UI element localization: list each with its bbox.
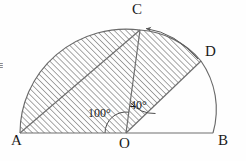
arc-DB [201,61,216,133]
vertex-label-c: C [132,2,142,17]
vertex-label-b: B [218,133,228,148]
geometry-figure: A B C D O 100° 40° ≡ [0,0,246,161]
angle-label-40: 40° [130,99,147,111]
vertex-label-o: O [119,136,130,151]
angle-label-100: 100° [88,107,111,119]
vertex-label-a: A [11,133,22,148]
clipped-edge-glyph-icon: ≡ [0,58,3,74]
vertex-label-d: D [205,44,216,59]
